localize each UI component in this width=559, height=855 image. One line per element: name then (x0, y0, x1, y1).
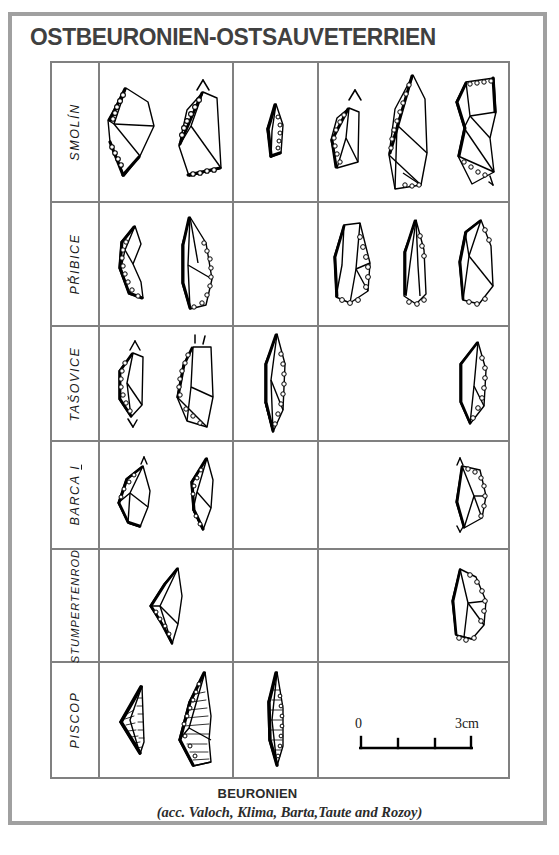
site-label: BARCA I (68, 465, 82, 526)
figure-caption: BEURONIEN (acc. Valoch, Klima, Barta,Tau… (12, 786, 543, 821)
caption-title: BEURONIEN (0, 786, 543, 801)
scale-min-label: 0 (355, 716, 362, 732)
table-row: TAŠOVICE (52, 327, 508, 442)
artifact-drawing (325, 86, 369, 178)
site-label: PŘIBICE (68, 233, 82, 294)
artifact-cell-col2 (234, 327, 319, 440)
artifact-cell-col1 (100, 442, 234, 548)
figure-plate: OSTBEURONIEN-OSTSAUVETERRIEN SMOLÍN (8, 12, 547, 825)
artifact-drawing (176, 213, 220, 315)
artifact-cell-col2 (234, 663, 319, 777)
page-title: OSTBEURONIEN-OSTSAUVETERRIEN (30, 24, 436, 51)
table-row: STUMPERTENROD (52, 550, 508, 663)
artifact-drawing (453, 216, 499, 312)
scale-bar: 0 3cm (359, 716, 473, 752)
artifact-drawing (111, 337, 151, 431)
table-row: PŘIBICE (52, 203, 508, 327)
caption-attribution: (acc. Valoch, Klima, Barta,Taute and Roz… (36, 804, 543, 821)
artifact-drawing (446, 72, 502, 192)
artifact-cell-col1 (100, 550, 234, 661)
site-label-cell: STUMPERTENROD (52, 550, 100, 661)
site-label-cell: PISCOP (52, 663, 100, 777)
artifact-drawing (263, 668, 289, 772)
site-label: TAŠOVICE (68, 346, 82, 421)
artifact-drawing (328, 217, 378, 311)
artifact-cell-col3 (319, 327, 508, 440)
artifact-cell-col1 (100, 203, 234, 325)
artifact-drawing (171, 668, 223, 772)
artifact-cell-col3 (319, 203, 508, 325)
artifact-cell-col1 (100, 63, 234, 201)
site-label-cell: PŘIBICE (52, 203, 100, 325)
artifact-drawing (448, 452, 494, 538)
site-label-cell: SMOLÍN (52, 63, 100, 201)
artifact-cell-col2 (234, 442, 319, 548)
artifact-cell-col3 (319, 442, 508, 548)
artifact-drawing (185, 452, 219, 538)
table-row: SMOLÍN (52, 63, 508, 203)
artifact-drawing (113, 220, 151, 308)
scale-max-label: 3cm (455, 716, 479, 732)
typology-table: SMOLÍN (50, 61, 510, 779)
artifact-drawing (452, 336, 494, 432)
artifact-drawing (173, 331, 221, 437)
artifact-drawing (259, 330, 293, 438)
artifact-drawing (144, 562, 188, 650)
artifact-drawing (110, 678, 152, 762)
artifact-cell-col2 (234, 203, 319, 325)
artifact-drawing (396, 216, 434, 312)
artifact-drawing (381, 69, 433, 195)
site-label-cell: TAŠOVICE (52, 327, 100, 440)
site-label: PISCOP (68, 692, 82, 749)
artifact-cell-col2 (234, 63, 319, 201)
artifact-cell-col3 (319, 550, 508, 661)
artifact-cell-col2 (234, 550, 319, 661)
site-label-cell: BARCA I (52, 442, 100, 548)
artifact-drawing (446, 563, 494, 649)
site-label: STUMPERTENROD (69, 548, 81, 662)
artifact-drawing (104, 80, 162, 184)
scale-bar-graphic (359, 734, 473, 752)
artifact-cell-col1 (100, 327, 234, 440)
artifact-drawing (263, 101, 289, 163)
artifact-cell-col3 (319, 63, 508, 201)
artifact-drawing (114, 453, 158, 537)
table-row: BARCA I (52, 442, 508, 550)
artifact-cell-col1 (100, 663, 234, 777)
artifact-drawing (169, 76, 229, 188)
site-label: SMOLÍN (68, 103, 82, 161)
